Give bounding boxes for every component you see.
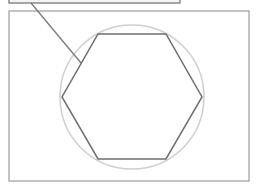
hexagon	[62, 34, 202, 159]
diagram-canvas	[0, 0, 260, 188]
callout-box	[9, 0, 180, 3]
leader-line	[31, 3, 81, 63]
circumscribed-circle	[60, 25, 204, 169]
frame	[9, 11, 249, 181]
